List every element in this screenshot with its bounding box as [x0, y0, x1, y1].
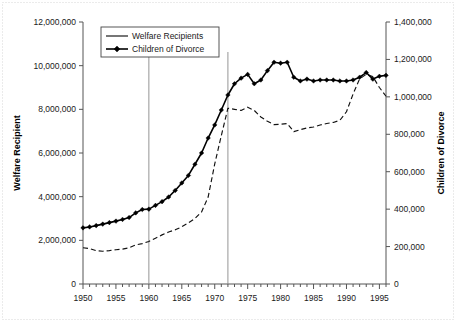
data-point-marker	[338, 79, 343, 84]
y-axis-right-title: Children of Divorce	[436, 111, 446, 194]
series-line	[83, 74, 386, 251]
data-point-marker	[107, 220, 112, 225]
x-axis-tick-labels: 1950195519601965197019751980198519901995	[74, 293, 390, 303]
data-point-marker	[305, 77, 310, 82]
data-point-marker	[100, 222, 105, 227]
data-point-marker	[81, 226, 86, 231]
data-point-marker	[318, 78, 323, 83]
data-point-marker	[278, 61, 283, 66]
data-point-marker	[94, 223, 99, 228]
x-axis-tick-label: 1985	[304, 293, 323, 303]
legend-label-welfare-recipients: Welfare Recipients	[132, 31, 203, 41]
chart-container: 1950195519601965197019751980198519901995…	[0, 0, 456, 322]
x-axis-tick-label: 1980	[271, 293, 290, 303]
data-point-marker	[114, 219, 119, 224]
x-axis-tick-label: 1965	[172, 293, 191, 303]
chart-legend: Welfare RecipientsChildren of Divorce	[101, 27, 219, 57]
y-axis-right-tick-label: 200,000	[394, 242, 425, 252]
y-axis-left-tick-label: 0	[71, 279, 76, 289]
series-children-of-divorce	[81, 60, 389, 230]
y-axis-right-tick-label: 1,200,000	[394, 54, 432, 64]
y-axis-left-title: Welfare Recipient	[12, 115, 22, 190]
series-line	[83, 62, 386, 228]
y-axis-left-tick-label: 2,000,000	[38, 235, 76, 245]
axis-titles: Welfare RecipientChildren of Divorce	[12, 111, 446, 194]
legend-label-children-of-divorce: Children of Divorce	[132, 44, 205, 54]
x-axis-tick-label: 1955	[106, 293, 125, 303]
y-axis-left-tick-label: 8,000,000	[38, 104, 76, 114]
data-point-marker	[324, 78, 329, 83]
x-axis-tick-label: 1950	[74, 293, 93, 303]
dual-axis-line-chart: 1950195519601965197019751980198519901995…	[0, 0, 456, 322]
x-axis-tick-label: 1970	[205, 293, 224, 303]
y-axis-right-tick-label: 0	[394, 279, 399, 289]
x-axis-tick-label: 1990	[337, 293, 356, 303]
x-axis-tick-label: 1960	[139, 293, 158, 303]
y-axis-left-tick-labels: 02,000,0004,000,0006,000,0008,000,00010,…	[33, 17, 76, 289]
data-point-marker	[344, 79, 349, 84]
data-point-marker	[87, 225, 92, 230]
x-axis-tick-label: 1975	[238, 293, 257, 303]
data-series-group	[81, 60, 389, 251]
x-axis-tick-label: 1995	[370, 293, 389, 303]
data-point-marker	[285, 60, 290, 65]
y-axis-left-tick-label: 6,000,000	[38, 148, 76, 158]
y-axis-right-tick-labels: 0200,000400,000600,000800,0001,000,0001,…	[394, 17, 432, 289]
y-axis-right-tick-label: 800,000	[394, 129, 425, 139]
y-axis-right-tick-label: 600,000	[394, 167, 425, 177]
data-point-marker	[351, 78, 356, 83]
data-point-marker	[120, 217, 125, 222]
data-point-marker	[331, 78, 336, 83]
y-axis-left-tick-label: 12,000,000	[33, 17, 76, 27]
y-axis-left-tick-label: 10,000,000	[33, 61, 76, 71]
y-axis-right-tick-label: 1,000,000	[394, 92, 432, 102]
data-point-marker	[384, 73, 389, 78]
reference-lines	[149, 52, 228, 284]
series-welfare-recipients	[83, 74, 386, 251]
data-point-marker	[311, 79, 316, 84]
y-axis-left-tick-label: 4,000,000	[38, 192, 76, 202]
y-axis-right-tick-label: 400,000	[394, 204, 425, 214]
data-point-marker	[219, 108, 224, 113]
data-point-marker	[377, 74, 382, 79]
y-axis-right-tick-label: 1,400,000	[394, 17, 432, 27]
